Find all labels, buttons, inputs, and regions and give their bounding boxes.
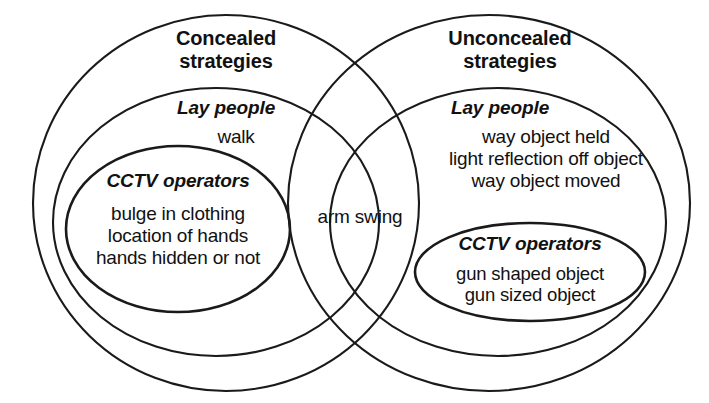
- right-lay-people-heading: Lay people: [400, 97, 600, 119]
- left-lay-people-heading: Lay people: [126, 97, 326, 119]
- left-lay-people-items: walk: [176, 126, 296, 148]
- unconcealed-strategies-title: Unconcealed strategies: [400, 27, 620, 73]
- intersection-label: arm swing: [300, 206, 420, 228]
- right-cctv-operators-heading: CCTV operators: [420, 233, 640, 255]
- right-cctv-operators-items: gun shaped object gun sized object: [420, 263, 640, 306]
- right-lay-people-items: way object held light reflection off obj…: [406, 126, 686, 192]
- venn-diagram-figure: Concealed strategies Lay people walk CCT…: [0, 0, 709, 403]
- left-cctv-operators-items: bulge in clothing location of hands hand…: [58, 203, 298, 269]
- concealed-strategies-title: Concealed strategies: [126, 27, 326, 73]
- left-cctv-operators-heading: CCTV operators: [68, 170, 288, 192]
